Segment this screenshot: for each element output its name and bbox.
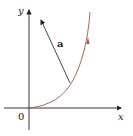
vector-curve-diagram: y x 0 a: [0, 0, 133, 136]
y-axis-label: y: [18, 6, 24, 16]
origin-label: 0: [18, 112, 24, 122]
vector-a: [41, 20, 70, 83]
x-axis-label: x: [118, 112, 124, 122]
vector-a-label: a: [57, 39, 63, 49]
